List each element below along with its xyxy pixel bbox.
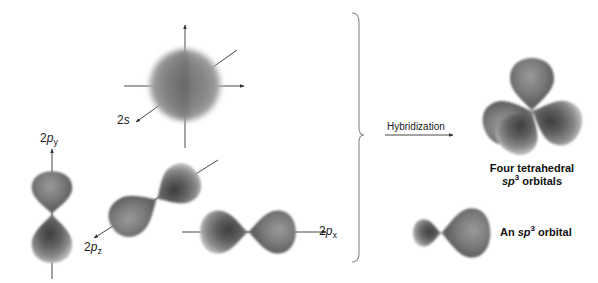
- 2px-lobe-left: [200, 210, 248, 253]
- 2py-lobe-bottom: [32, 214, 72, 263]
- label-2py-subscript: y: [53, 137, 58, 147]
- label-2px-subscript: x: [332, 230, 337, 240]
- 2pz-lobe-upper: [146, 156, 208, 216]
- hybridization-label: Hybridization: [387, 121, 445, 132]
- label-2s-number: 2: [117, 113, 124, 127]
- tetrahedral-caption-line1: Four tetrahedral: [476, 162, 588, 175]
- sp3-lobe-top: [510, 58, 554, 111]
- orbital-2s: [124, 25, 244, 148]
- orbital-2pz: [94, 156, 218, 244]
- label-2py-number: 2: [40, 131, 47, 145]
- label-2pz-subscript: z: [97, 246, 102, 256]
- single-caption-rest: orbital: [535, 226, 572, 238]
- 2pz-lobe-lower: [101, 182, 167, 244]
- label-2px: 2px: [319, 224, 337, 240]
- 2py-lobe-top: [32, 171, 72, 214]
- 2px-lobe-right: [248, 210, 296, 253]
- tetrahedral-sp3-orbitals: [477, 58, 589, 162]
- single-caption-sp: sp: [518, 226, 531, 238]
- sp3-large-lobe: [441, 208, 490, 257]
- grouping-brace: [352, 13, 364, 262]
- single-sp3-caption: An sp3 orbital: [500, 226, 572, 239]
- single-sp3-orbital: [413, 208, 490, 257]
- orbital-2py: [32, 149, 72, 279]
- label-2pz-number: 2: [84, 240, 91, 254]
- tetrahedral-caption-rest: orbitals: [519, 175, 562, 187]
- label-2px-number: 2: [319, 224, 326, 238]
- label-2py: 2py: [40, 131, 58, 147]
- label-2pz: 2pz: [84, 240, 102, 256]
- sp3-small-lobe: [413, 219, 441, 246]
- tetrahedral-caption: Four tetrahedral sp3 orbitals: [476, 162, 588, 188]
- tetrahedral-caption-sp: sp: [502, 175, 515, 187]
- label-2s: 2s: [117, 113, 130, 127]
- label-2s-letter: s: [124, 113, 130, 127]
- tetrahedral-caption-line2: sp3 orbitals: [476, 175, 588, 188]
- single-caption-prefix: An: [500, 226, 518, 238]
- orbital-2px: [182, 210, 326, 253]
